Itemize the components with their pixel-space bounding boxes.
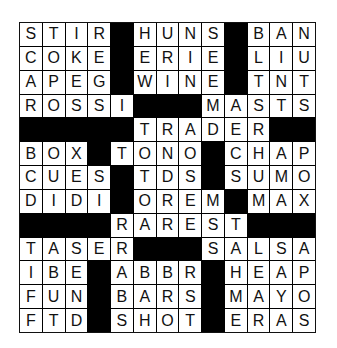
letter-cell[interactable]: D — [157, 166, 179, 189]
letter-cell[interactable]: T — [270, 95, 292, 118]
letter-cell[interactable]: O — [134, 142, 156, 165]
letter-cell[interactable]: T — [20, 238, 42, 261]
letter-cell[interactable]: U — [43, 166, 65, 189]
letter-cell[interactable]: S — [179, 166, 201, 189]
letter-cell[interactable]: C — [20, 166, 42, 189]
letter-cell[interactable]: I — [270, 47, 292, 70]
letter-cell[interactable]: I — [111, 95, 133, 118]
letter-cell[interactable]: B — [111, 285, 133, 308]
letter-cell[interactable]: H — [248, 142, 270, 165]
letter-cell[interactable]: B — [20, 142, 42, 165]
letter-cell[interactable]: M — [248, 190, 270, 213]
letter-cell[interactable]: O — [43, 47, 65, 70]
letter-cell[interactable]: R — [111, 238, 133, 261]
letter-cell[interactable]: T — [248, 71, 270, 94]
letter-cell[interactable]: E — [66, 71, 88, 94]
letter-cell[interactable]: S — [88, 95, 110, 118]
letter-cell[interactable]: S — [66, 95, 88, 118]
letter-cell[interactable]: M — [202, 190, 224, 213]
letter-cell[interactable]: X — [293, 190, 315, 213]
letter-cell[interactable]: R — [248, 309, 270, 332]
letter-cell[interactable]: S — [225, 166, 247, 189]
letter-cell[interactable]: A — [270, 309, 292, 332]
letter-cell[interactable]: N — [179, 71, 201, 94]
letter-cell[interactable]: B — [248, 23, 270, 46]
letter-cell[interactable]: A — [270, 190, 292, 213]
letter-cell[interactable]: C — [20, 47, 42, 70]
letter-cell[interactable]: S — [202, 238, 224, 261]
letter-cell[interactable]: O — [43, 95, 65, 118]
letter-cell[interactable]: N — [270, 71, 292, 94]
letter-cell[interactable]: S — [202, 214, 224, 237]
letter-cell[interactable]: A — [225, 238, 247, 261]
letter-cell[interactable]: T — [179, 309, 201, 332]
letter-cell[interactable]: N — [179, 23, 201, 46]
letter-cell[interactable]: A — [270, 23, 292, 46]
letter-cell[interactable]: E — [202, 71, 224, 94]
letter-cell[interactable]: A — [111, 261, 133, 284]
letter-cell[interactable]: O — [293, 285, 315, 308]
letter-cell[interactable]: D — [20, 190, 42, 213]
letter-cell[interactable]: E — [134, 47, 156, 70]
letter-cell[interactable]: S — [66, 238, 88, 261]
letter-cell[interactable]: N — [293, 23, 315, 46]
letter-cell[interactable]: N — [66, 285, 88, 308]
letter-cell[interactable]: A — [20, 71, 42, 94]
letter-cell[interactable]: O — [134, 190, 156, 213]
letter-cell[interactable]: E — [179, 214, 201, 237]
letter-cell[interactable]: E — [179, 190, 201, 213]
letter-cell[interactable]: A — [293, 238, 315, 261]
letter-cell[interactable]: A — [134, 285, 156, 308]
letter-cell[interactable]: B — [43, 261, 65, 284]
letter-cell[interactable]: C — [225, 142, 247, 165]
letter-cell[interactable]: O — [293, 166, 315, 189]
letter-cell[interactable]: U — [157, 23, 179, 46]
letter-cell[interactable]: D — [66, 309, 88, 332]
letter-cell[interactable]: A — [270, 142, 292, 165]
letter-cell[interactable]: K — [66, 47, 88, 70]
letter-cell[interactable]: D — [66, 190, 88, 213]
letter-cell[interactable]: S — [293, 309, 315, 332]
letter-cell[interactable]: U — [248, 166, 270, 189]
letter-cell[interactable]: R — [88, 23, 110, 46]
letter-cell[interactable]: R — [157, 214, 179, 237]
letter-cell[interactable]: S — [20, 23, 42, 46]
letter-cell[interactable]: I — [66, 23, 88, 46]
letter-cell[interactable]: T — [43, 23, 65, 46]
letter-cell[interactable]: E — [225, 309, 247, 332]
letter-cell[interactable]: A — [225, 95, 247, 118]
letter-cell[interactable]: F — [20, 285, 42, 308]
letter-cell[interactable]: P — [293, 142, 315, 165]
letter-cell[interactable]: P — [43, 71, 65, 94]
letter-cell[interactable]: R — [157, 285, 179, 308]
letter-cell[interactable]: T — [134, 166, 156, 189]
letter-cell[interactable]: I — [43, 190, 65, 213]
letter-cell[interactable]: T — [293, 71, 315, 94]
letter-cell[interactable]: O — [157, 309, 179, 332]
letter-cell[interactable]: T — [43, 309, 65, 332]
letter-cell[interactable]: F — [20, 309, 42, 332]
letter-cell[interactable]: R — [20, 95, 42, 118]
letter-cell[interactable]: M — [202, 95, 224, 118]
letter-cell[interactable]: W — [134, 71, 156, 94]
letter-cell[interactable]: L — [248, 47, 270, 70]
letter-cell[interactable]: T — [111, 142, 133, 165]
letter-cell[interactable]: M — [225, 285, 247, 308]
letter-cell[interactable]: R — [248, 118, 270, 141]
letter-cell[interactable]: N — [157, 142, 179, 165]
letter-cell[interactable]: H — [225, 261, 247, 284]
letter-cell[interactable]: S — [293, 95, 315, 118]
letter-cell[interactable]: U — [293, 47, 315, 70]
letter-cell[interactable]: A — [43, 238, 65, 261]
letter-cell[interactable]: I — [179, 47, 201, 70]
letter-cell[interactable]: S — [111, 309, 133, 332]
letter-cell[interactable]: A — [248, 285, 270, 308]
letter-cell[interactable]: X — [66, 142, 88, 165]
letter-cell[interactable]: Y — [270, 285, 292, 308]
letter-cell[interactable]: U — [43, 285, 65, 308]
letter-cell[interactable]: R — [157, 118, 179, 141]
letter-cell[interactable]: R — [157, 190, 179, 213]
letter-cell[interactable]: E — [88, 47, 110, 70]
letter-cell[interactable]: P — [293, 261, 315, 284]
letter-cell[interactable]: E — [88, 238, 110, 261]
